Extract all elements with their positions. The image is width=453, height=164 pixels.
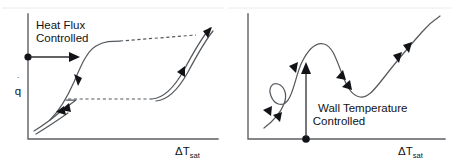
y-axis-dot-accent: ˙ <box>17 76 20 86</box>
arrow-lower-left-a <box>263 106 272 116</box>
control-pointer-arrowhead <box>301 62 311 74</box>
wall-temperature-controlled-plot: ΔTsat Wall Temperature Controlled <box>226 0 453 164</box>
x-axis-label: ΔTsat <box>175 145 201 160</box>
arrow-film-up-a <box>403 42 412 53</box>
lower-return-branch-secondary <box>36 113 68 134</box>
control-pointer-arrowhead <box>69 52 80 62</box>
x-axis-label: ΔTsat <box>398 145 424 160</box>
arrow-nucleate-up <box>289 62 298 73</box>
annotation-line-1: Heat Flux <box>36 19 85 31</box>
x-axis-label-sub: sat <box>190 151 201 160</box>
arrow-lower-left-b <box>273 112 282 122</box>
annotation-line-1: Wall Temperature <box>318 102 407 114</box>
x-axis-label-main: ΔT <box>175 145 190 157</box>
annotation-line-2: Controlled <box>313 115 365 127</box>
y-axis-label: q <box>15 85 21 97</box>
arrow-transition-down-b <box>342 80 352 90</box>
panel-wall-temperature-controlled: ΔTsat Wall Temperature Controlled <box>226 0 453 164</box>
upward-jump-dashed <box>120 35 196 41</box>
film-boiling-upper-branch-secondary <box>156 31 213 101</box>
panel-heat-flux-controlled: q ˙ ΔTsat <box>0 0 226 164</box>
boiling-curve-figure: q ˙ ΔTsat <box>0 0 453 164</box>
annotation-line-2: Controlled <box>36 32 88 44</box>
x-axis-label-main: ΔT <box>398 145 413 157</box>
x-axis-label-sub: sat <box>413 151 424 160</box>
film-boiling-upper-branch <box>152 28 210 99</box>
heat-flux-controlled-plot: q ˙ ΔTsat <box>0 0 226 164</box>
nucleate-boiling-rising-branch <box>50 41 120 120</box>
